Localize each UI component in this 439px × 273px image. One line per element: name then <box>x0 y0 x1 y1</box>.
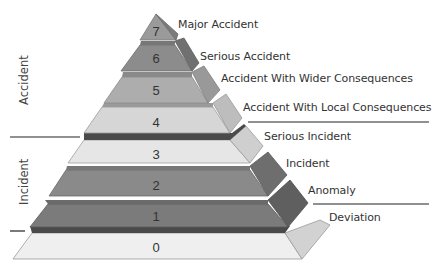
level-label-major-accident: Major Accident <box>178 18 258 31</box>
tier-number-5: 5 <box>146 83 166 98</box>
level-label-anomaly: Anomaly <box>308 184 356 197</box>
level-label-wider-consequences: Accident With Wider Consequences <box>221 72 413 85</box>
level-label-deviation: Deviation <box>329 211 381 224</box>
tier-number-7: 7 <box>146 24 166 39</box>
level-label-serious-incident: Serious Incident <box>264 130 351 143</box>
group-label-incident: Incident <box>17 159 31 205</box>
tier-number-3: 3 <box>146 147 166 162</box>
tier-number-0: 0 <box>146 240 166 255</box>
tier-number-1: 1 <box>146 209 166 224</box>
level-label-incident: Incident <box>286 157 330 170</box>
tier-number-6: 6 <box>146 51 166 66</box>
severity-pyramid <box>0 0 439 273</box>
tier-number-4: 4 <box>146 115 166 130</box>
level-label-serious-accident: Serious Accident <box>200 50 290 63</box>
tier-number-2: 2 <box>146 178 166 193</box>
level-label-local-consequences: Accident With Local Consequences <box>243 101 431 114</box>
group-label-accident: Accident <box>17 55 31 105</box>
